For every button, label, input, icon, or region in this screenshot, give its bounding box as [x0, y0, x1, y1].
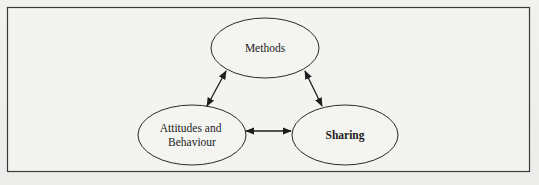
relationship-diagram: Methods Attitudes and Behaviour Sharing: [0, 0, 539, 185]
node-methods: Methods: [211, 18, 319, 78]
node-methods-label: Methods: [245, 42, 286, 54]
node-sharing: Sharing: [292, 105, 398, 165]
node-attitudes-label-line-2: Behaviour: [168, 136, 216, 148]
node-attitudes-ellipse: [138, 105, 246, 165]
node-methods-label-line-1: Methods: [245, 42, 286, 54]
node-attitudes-and-behaviour: Attitudes and Behaviour: [138, 105, 246, 165]
node-attitudes-label-line-1: Attitudes and: [160, 122, 222, 134]
node-sharing-label-line-1: Sharing: [326, 129, 365, 142]
node-sharing-label: Sharing: [326, 129, 365, 142]
